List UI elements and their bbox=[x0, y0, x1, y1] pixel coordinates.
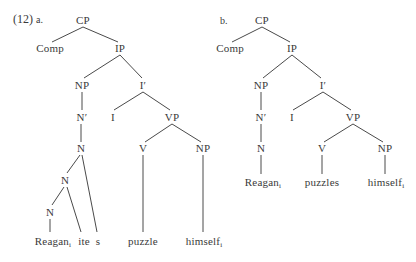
subexample-b-label: b. bbox=[220, 13, 228, 28]
tree-a-leaf-ite: ite bbox=[78, 235, 90, 247]
tree-a-np: NP bbox=[75, 79, 89, 91]
tree-a-np-object: NP bbox=[196, 142, 210, 154]
tree-a-ibar: I′ bbox=[140, 79, 146, 91]
himself-word: himself bbox=[368, 176, 402, 188]
tree-a-n-bottom: N bbox=[46, 206, 54, 218]
tree-b-comp: Comp bbox=[216, 42, 244, 54]
tree-a-leaf-reagan: Reagani bbox=[35, 235, 71, 247]
tree-b-i: I bbox=[290, 111, 294, 123]
tree-a-vp: VP bbox=[165, 111, 179, 123]
tree-a-i: I bbox=[111, 111, 115, 123]
tree-a-nbar: N′ bbox=[77, 111, 88, 123]
tree-a-ip: IP bbox=[115, 42, 125, 54]
tree-b-vp: VP bbox=[346, 111, 360, 123]
example-number-text: (12) bbox=[13, 12, 33, 26]
reagan-word: Reagan bbox=[245, 176, 279, 188]
subexample-a-label: a. bbox=[36, 14, 43, 25]
subexample-b-text: b. bbox=[220, 15, 228, 26]
tree-b-leaf-himself: himselfi bbox=[368, 176, 405, 188]
tree-b-leaf-puzzles: puzzles bbox=[305, 176, 339, 188]
tree-b-np: NP bbox=[254, 79, 268, 91]
reagan-index: i bbox=[279, 182, 281, 190]
tree-a-leaf-s: s bbox=[96, 235, 100, 247]
tree-b-ibar: I′ bbox=[320, 79, 326, 91]
tree-a-comp: Comp bbox=[36, 42, 64, 54]
tree-a-cp: CP bbox=[76, 14, 90, 26]
tree-a-v: V bbox=[139, 142, 147, 154]
tree-b-np-object: NP bbox=[378, 142, 392, 154]
reagan-word: Reagan bbox=[35, 235, 69, 247]
example-number: (12) a. bbox=[13, 12, 43, 27]
himself-word: himself bbox=[186, 235, 220, 247]
tree-b-cp: CP bbox=[255, 14, 269, 26]
tree-a-n-mid: N bbox=[61, 174, 69, 186]
tree-edges bbox=[0, 0, 416, 262]
tree-b-leaf-reagan: Reagani bbox=[245, 176, 281, 188]
tree-b-n: N bbox=[257, 142, 265, 154]
tree-a-leaf-puzzle: puzzle bbox=[128, 235, 158, 247]
tree-a-leaf-himself: himselfi bbox=[186, 235, 223, 247]
tree-b-v: V bbox=[318, 142, 326, 154]
tree-b-nbar: N′ bbox=[256, 111, 267, 123]
himself-index: i bbox=[402, 182, 404, 190]
tree-a-n-top: N bbox=[77, 142, 85, 154]
himself-index: i bbox=[220, 241, 222, 249]
tree-b-ip: IP bbox=[287, 42, 297, 54]
reagan-index: i bbox=[69, 241, 71, 249]
